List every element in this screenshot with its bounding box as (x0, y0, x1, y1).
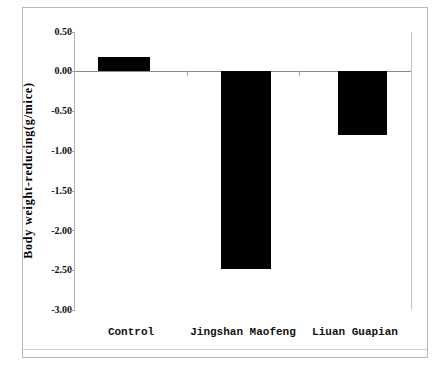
x-axis-tick-labels: Control Jingshan Maofeng Liuan Guapian (75, 326, 412, 348)
y-tick-label: -2.00 (38, 226, 72, 236)
bar-chart: Body weight-reducing(g/mice) 0.50 0.00 -… (0, 0, 447, 377)
x-tick-label-jingshan-maofeng: Jingshan Maofeng (187, 326, 299, 338)
plot-right-border (411, 32, 412, 310)
y-tick-label: 0.50 (38, 27, 72, 37)
y-tick-label: -1.00 (38, 146, 72, 156)
bar-control[interactable] (98, 57, 150, 71)
bar-jingshan-maofeng[interactable] (221, 71, 271, 269)
bar-liuan-guapian[interactable] (338, 71, 387, 135)
y-tick-label: -0.50 (38, 106, 72, 116)
y-axis-title: Body weight-reducing(g/mice) (17, 30, 39, 310)
x-tick-mark (187, 71, 188, 76)
y-tick-label: -3.00 (38, 305, 72, 315)
x-tick-label-liuan-guapian: Liuan Guapian (299, 326, 411, 338)
y-tick-label: -1.50 (38, 186, 72, 196)
y-tick-label: -2.50 (38, 265, 72, 275)
y-axis-tick-labels: 0.50 0.00 -0.50 -1.00 -1.50 -2.00 -2.50 … (38, 0, 72, 377)
y-tick-label: 0.00 (38, 66, 72, 76)
x-tick-label-control: Control (75, 326, 187, 338)
x-tick-mark (299, 71, 300, 76)
figure-bottom-rule (23, 349, 427, 350)
plot-area (75, 32, 412, 310)
y-axis-title-text: Body weight-reducing(g/mice) (21, 82, 36, 259)
